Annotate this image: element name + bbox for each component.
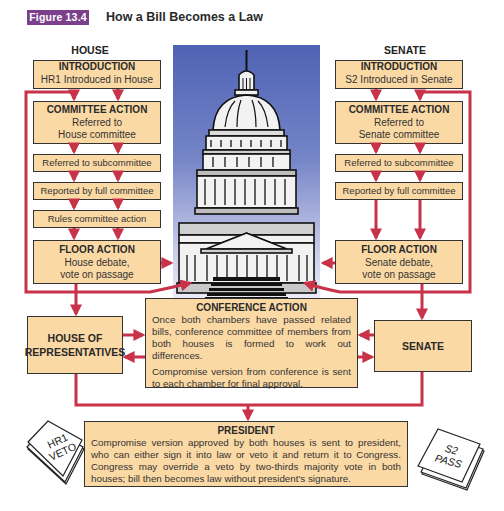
senate-committee-box: COMMITTEE ACTION Referred to Senate comm…: [335, 101, 463, 144]
house-chamber-line1: HOUSE OF: [48, 331, 103, 345]
senate-committee-title: COMMITTEE ACTION: [336, 104, 462, 117]
senate-committee-line1: Referred to: [336, 117, 462, 130]
house-floor-box: FLOOR ACTION House debate, vote on passa…: [33, 240, 161, 284]
house-step-full-committee: Reported by full committee: [33, 182, 161, 200]
senate-step-subcommittee: Referred to subcommittee: [335, 154, 463, 172]
house-column-label: HOUSE: [60, 44, 120, 56]
senate-floor-line1: Senate debate,: [336, 257, 462, 270]
house-floor-line2: vote on passage: [34, 269, 160, 282]
house-introduction-text: HR1 Introduced in House: [34, 74, 160, 87]
senate-floor-title: FLOOR ACTION: [336, 244, 462, 257]
conference-paragraph-1: Once both chambers have passed related b…: [152, 314, 351, 362]
house-of-representatives-box: HOUSE OF REPRESENTATIVES: [27, 316, 123, 374]
senate-chamber-line1: SENATE: [402, 339, 444, 353]
senate-chamber-box: SENATE: [374, 320, 472, 372]
senate-introduction-text: S2 Introduced in Senate: [336, 74, 462, 87]
conference-paragraph-2: Compromise version from conference is se…: [152, 366, 351, 390]
house-chamber-line2: REPRESENTATIVES: [25, 345, 126, 359]
conference-action-box: CONFERENCE ACTION Once both chambers hav…: [145, 298, 358, 388]
house-committee-title: COMMITTEE ACTION: [34, 104, 160, 117]
pass-slip-label: S2 PASS: [428, 438, 473, 472]
senate-floor-line2: vote on passage: [336, 269, 462, 282]
house-committee-line1: Referred to: [34, 117, 160, 130]
house-floor-line1: House debate,: [34, 257, 160, 270]
house-introduction-box: INTRODUCTION HR1 Introduced in House: [33, 60, 161, 89]
house-step-subcommittee: Referred to subcommittee: [33, 154, 161, 172]
president-title: PRESIDENT: [91, 425, 401, 437]
senate-step-full-committee: Reported by full committee: [335, 182, 463, 200]
house-introduction-title: INTRODUCTION: [34, 61, 160, 74]
figure-number-badge: Figure 13.4: [27, 10, 89, 25]
veto-slip-label: HR1 VETO: [37, 427, 83, 466]
president-box: PRESIDENT Compromise version approved by…: [84, 421, 408, 487]
senate-introduction-title: INTRODUCTION: [336, 61, 462, 74]
house-step-rules-committee: Rules committee action: [33, 210, 161, 228]
senate-floor-box: FLOOR ACTION Senate debate, vote on pass…: [335, 240, 463, 284]
house-committee-box: COMMITTEE ACTION Referred to House commi…: [33, 101, 161, 144]
house-floor-title: FLOOR ACTION: [34, 244, 160, 257]
senate-column-label: SENATE: [370, 44, 440, 56]
senate-introduction-box: INTRODUCTION S2 Introduced in Senate: [335, 60, 463, 89]
senate-committee-line2: Senate committee: [336, 129, 462, 142]
house-committee-line2: House committee: [34, 129, 160, 142]
capitol-building-icon: [173, 45, 320, 300]
president-text: Compromise version approved by both hous…: [91, 437, 401, 485]
figure-title: How a Bill Becomes a Law: [106, 9, 263, 26]
conference-title: CONFERENCE ACTION: [152, 302, 351, 314]
capitol-illustration: [173, 45, 320, 300]
